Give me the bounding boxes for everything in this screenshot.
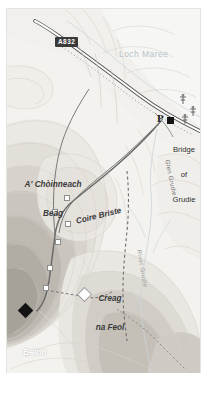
waypoint-marker[interactable] — [55, 239, 61, 245]
page-bottom-margin — [0, 373, 207, 394]
waypoint-marker[interactable] — [43, 285, 49, 291]
waypoint-marker[interactable] — [47, 265, 53, 271]
car-park-square-icon[interactable] — [167, 117, 174, 124]
waypoint-marker[interactable] — [64, 195, 70, 201]
waypoint-marker[interactable] — [52, 209, 58, 215]
conifer-tree-icon-1 — [180, 94, 186, 104]
waypoint-marker[interactable] — [65, 221, 71, 227]
conifer-tree-icon-3 — [182, 114, 188, 124]
map-frame[interactable]: P A832 Loch Maree Bridge of Grudie A' Ch… — [7, 9, 200, 373]
map-figure: P A832 Loch Maree Bridge of Grudie A' Ch… — [0, 0, 207, 394]
point-symbols-layer — [7, 9, 200, 373]
conifer-tree-icon-2 — [190, 106, 196, 116]
road-shield-a832[interactable]: A832 — [55, 37, 78, 47]
parking-icon[interactable]: P — [157, 113, 164, 124]
